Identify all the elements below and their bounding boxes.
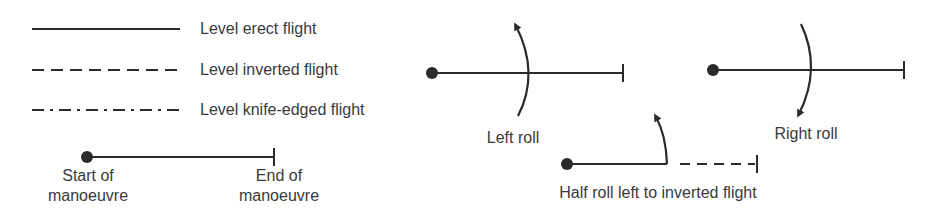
left-roll-label: Left roll	[487, 128, 539, 148]
legend-label-knife-edge: Level knife-edged flight	[200, 100, 365, 120]
roll-arrow-up-icon	[516, 26, 529, 116]
start-label-line2: manoeuvre	[48, 186, 128, 206]
start-dot-icon	[561, 158, 573, 170]
half-roll-arrow-icon	[656, 117, 667, 164]
manoeuvre-notation-diagram	[0, 0, 940, 219]
left-roll-figure	[426, 26, 623, 116]
start-label-line1: Start of	[62, 166, 114, 186]
legend-label-erect: Level erect flight	[200, 19, 317, 39]
end-label-line2: manoeuvre	[239, 186, 319, 206]
start-dot-icon	[426, 67, 438, 79]
start-dot-icon	[707, 64, 719, 76]
legend-label-inverted: Level inverted flight	[200, 60, 338, 80]
sample-manoeuvre	[81, 148, 274, 166]
start-dot-icon	[81, 151, 93, 163]
half-roll-label: Half roll left to inverted flight	[559, 183, 756, 203]
half-roll-figure	[561, 117, 757, 173]
end-label-line1: End of	[256, 166, 302, 186]
right-roll-figure	[707, 24, 904, 114]
right-roll-label: Right roll	[774, 124, 837, 144]
